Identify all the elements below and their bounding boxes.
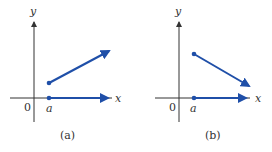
figure-a: y x 0 a (a) [10, 5, 122, 142]
caption-b: (b) [205, 129, 221, 142]
upper-ray [49, 51, 109, 83]
x-axis-label: x [255, 92, 262, 105]
upper-ray-endpoint [47, 81, 52, 86]
origin-label: 0 [24, 101, 31, 114]
lower-ray-endpoint [192, 96, 197, 101]
upper-ray-endpoint [192, 52, 197, 57]
upper-ray [194, 54, 249, 86]
lower-ray-endpoint [47, 96, 52, 101]
caption-a: (a) [60, 129, 75, 142]
y-axis-label: y [29, 5, 37, 18]
point-a-label: a [46, 102, 53, 115]
y-axis-label: y [174, 5, 182, 18]
figure-canvas: y x 0 a (a) y x 0 a (b) [0, 0, 272, 152]
diagram: y x 0 a (a) y x 0 a (b) [0, 0, 272, 152]
figure-b: y x 0 a (b) [155, 5, 262, 142]
point-a-label: a [190, 102, 197, 115]
origin-label: 0 [169, 101, 176, 114]
x-axis-label: x [115, 92, 122, 105]
